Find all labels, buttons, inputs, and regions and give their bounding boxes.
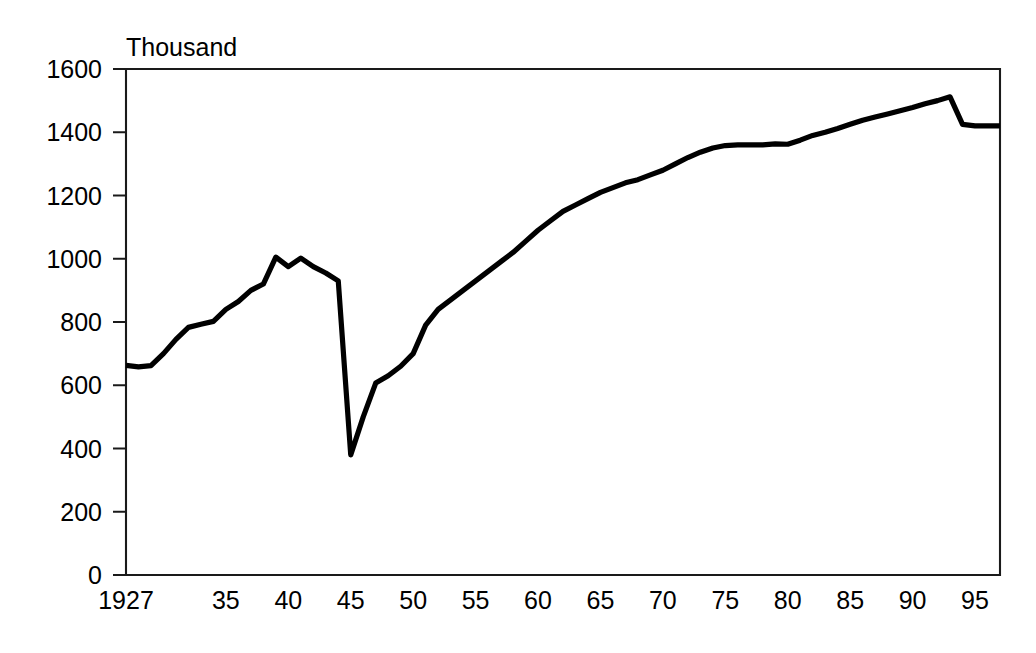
x-axis-tick-label: 65	[587, 586, 615, 614]
y-axis-tick-label: 400	[60, 435, 102, 463]
x-axis-tick-label: 75	[711, 586, 739, 614]
y-axis-tick-label: 0	[88, 561, 102, 589]
x-axis-tick-label: 50	[399, 586, 427, 614]
x-axis-tick-label: 90	[899, 586, 927, 614]
y-axis-tick-label: 600	[60, 371, 102, 399]
x-axis-tick-label: 45	[337, 586, 365, 614]
plot-axis-frame	[126, 69, 1000, 575]
y-axis-tick-label: 800	[60, 308, 102, 336]
x-axis-tick-labels: 192735404550556065707580859095	[98, 586, 989, 614]
line-chart: Thousand 02004006008001000120014001600 1…	[0, 0, 1036, 653]
y-axis-tick-labels: 02004006008001000120014001600	[46, 55, 102, 589]
x-axis-tick-label: 60	[524, 586, 552, 614]
x-axis-tick-label: 55	[462, 586, 490, 614]
y-axis-tick-label: 1000	[46, 245, 102, 273]
data-series-line	[126, 97, 1000, 455]
x-axis-tick-label: 40	[274, 586, 302, 614]
x-axis-tick-label: 70	[649, 586, 677, 614]
x-axis-tick-label: 35	[212, 586, 240, 614]
y-axis-tick-label: 200	[60, 498, 102, 526]
x-axis-tick-label: 85	[836, 586, 864, 614]
chart-container: Thousand 02004006008001000120014001600 1…	[0, 0, 1036, 653]
x-axis-tick-label: 95	[961, 586, 989, 614]
y-axis-unit-label-group: Thousand	[126, 33, 237, 61]
x-axis-tick-label: 80	[774, 586, 802, 614]
y-axis-tick-label: 1600	[46, 55, 102, 83]
y-axis-tick-label: 1200	[46, 182, 102, 210]
x-axis-tick-label: 1927	[98, 586, 154, 614]
y-axis-unit-label: Thousand	[126, 33, 237, 61]
y-axis-tick-marks	[113, 69, 126, 575]
y-axis-tick-label: 1400	[46, 118, 102, 146]
